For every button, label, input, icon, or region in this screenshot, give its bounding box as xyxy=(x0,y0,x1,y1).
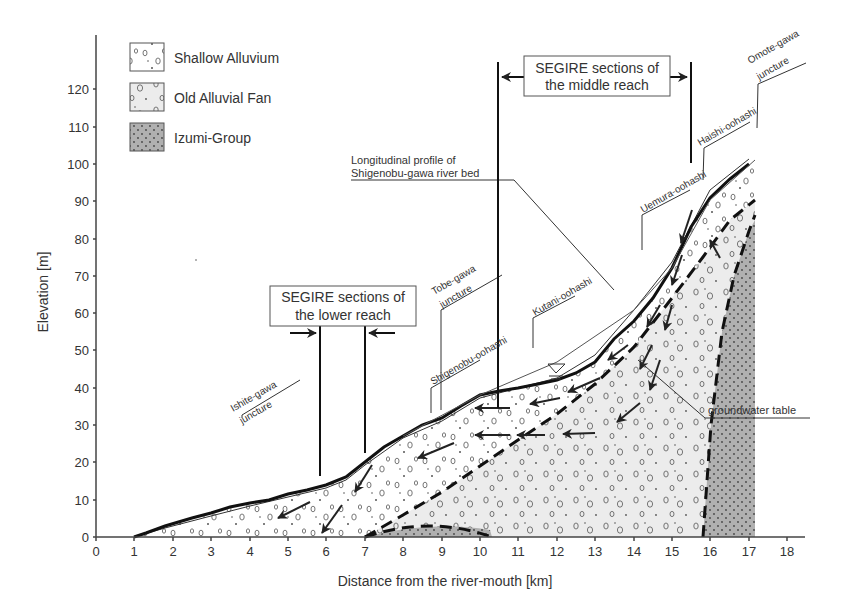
y-axis-title: Elevation [m] xyxy=(35,252,51,333)
x-tick-label: 6 xyxy=(322,544,329,559)
y-tick-label: 80 xyxy=(75,232,89,247)
y-tick-label: 110 xyxy=(68,120,89,135)
y-tick-label: 90 xyxy=(75,194,89,209)
segire-middle-reach-box: SEGIRE sections of the middle reach xyxy=(524,56,670,96)
x-tick-label: 1 xyxy=(130,544,137,559)
y-tick-label: 70 xyxy=(75,269,89,284)
x-tick-label: 12 xyxy=(550,544,564,559)
x-tick-label: 3 xyxy=(207,544,214,559)
x-tick-label: 9 xyxy=(438,544,445,559)
x-tick-label: 14 xyxy=(627,544,641,559)
kutani-oohashi-label: Kutani-oohashi xyxy=(531,275,594,318)
x-tick-label: 2 xyxy=(169,544,176,559)
middle-reach-label: the middle reach xyxy=(545,77,649,93)
y-tick-label: 50 xyxy=(75,343,89,358)
legend-label: Old Alluvial Fan xyxy=(174,90,271,106)
y-tick-label: 30 xyxy=(75,418,89,433)
y-tick-label: 40 xyxy=(75,381,89,396)
legend-label: Izumi-Group xyxy=(174,130,251,146)
x-tick-label: 16 xyxy=(703,544,717,559)
stray-dot xyxy=(195,259,197,261)
profile-label: Longitudinal profile of xyxy=(351,154,457,166)
x-tick-label: 4 xyxy=(246,544,253,559)
uemura-oohashi-label: Uemura-oohashi xyxy=(639,168,709,214)
x-axis-title: Distance from the river-mouth [km] xyxy=(338,573,553,589)
x-tick-label: 11 xyxy=(511,544,525,559)
profile-label: Shigenobu-gawa river bed xyxy=(351,167,479,179)
y-tick-label: 10 xyxy=(75,493,89,508)
y-tick-label: 20 xyxy=(75,455,89,470)
y-tick-label: 0 xyxy=(82,530,89,545)
y-tick-label: 120 xyxy=(67,82,89,97)
x-tick-label: 15 xyxy=(665,544,679,559)
x-tick-label: 17 xyxy=(742,544,756,559)
y-tick-label: 100 xyxy=(67,157,89,172)
legend-swatch-old-alluvial-fan xyxy=(130,83,164,111)
x-tick-label: 13 xyxy=(588,544,602,559)
y-tick-labels: 0 10 20 30 40 50 60 70 80 90 100 110 120 xyxy=(67,82,89,545)
x-tick-label: 10 xyxy=(473,544,487,559)
flow-arrow xyxy=(563,433,595,434)
x-tick-label: 8 xyxy=(399,544,406,559)
legend: Shallow Alluvium Old Alluvial Fan Izumi-… xyxy=(130,43,279,151)
middle-reach-label: SEGIRE sections of xyxy=(535,60,659,76)
omote-gawa-label: Omote-gawa xyxy=(746,27,801,65)
geology-layers xyxy=(134,162,755,537)
cross-section-figure: 0 10 20 30 40 50 60 70 80 90 100 110 120… xyxy=(0,0,850,616)
segire-lower-reach-box: SEGIRE sections of the lower reach xyxy=(270,286,416,326)
x-tick-labels: 0 1 2 3 4 5 6 7 8 9 10 11 12 13 14 15 16… xyxy=(92,544,794,559)
y-tick-label: 60 xyxy=(75,306,89,321)
legend-swatch-izumi-group xyxy=(130,123,164,151)
legend-label: Shallow Alluvium xyxy=(174,50,279,66)
x-tick-label: 0 xyxy=(92,544,99,559)
x-tick-label: 7 xyxy=(361,544,368,559)
lower-reach-label: SEGIRE sections of xyxy=(281,289,405,305)
x-tick-label: 5 xyxy=(284,544,291,559)
profile-leader xyxy=(351,180,614,290)
groundwater-table-label: groundwater table xyxy=(708,404,796,416)
legend-swatch-shallow-alluvium xyxy=(130,43,164,71)
lower-reach-label: the lower reach xyxy=(295,307,391,323)
x-tick-label: 18 xyxy=(780,544,794,559)
haishi-oohashi-label: Haishi-oohashi xyxy=(696,105,759,148)
